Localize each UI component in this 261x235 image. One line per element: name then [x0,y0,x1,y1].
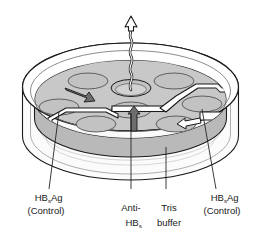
label-tris-buffer-line1: Tris [161,202,177,213]
label-anti-hbs-line2: HBs [107,217,155,230]
well-top-right [154,73,194,89]
well-bottom-left [76,116,116,132]
labels-group: HBsAg (Control) Anti- HBs Tris buffer HB… [16,192,252,230]
diagram-canvas: HBsAg (Control) Anti- HBs Tris buffer HB… [0,0,261,235]
label-hbsag-control-left-line2: (Control) [28,205,65,216]
label-hbsag-control-left-line1: HBsAg [16,192,76,204]
well-top-left [68,73,108,89]
label-hbsag-control-right-line1: HBsAg [192,192,252,204]
wavy-arrow-head [125,16,137,31]
petri-dish-diagram: HBsAg (Control) Anti- HBs Tris buffer HB… [0,0,261,235]
label-hbsag-control-right-line2: (Control) [204,205,241,216]
label-tris-buffer-line2: buffer [157,217,181,228]
label-anti-hbs-line1: Anti- [121,202,141,213]
